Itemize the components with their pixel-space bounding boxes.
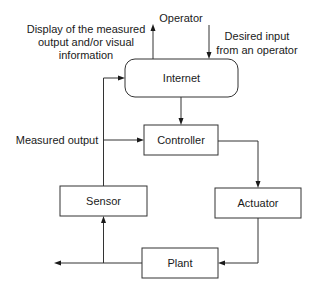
controller-label: Controller — [157, 134, 205, 146]
edge-operator-to-internet — [207, 25, 212, 59]
arrow-up-icon — [101, 216, 106, 223]
edge-controller-to-actuator — [218, 141, 261, 188]
arrow-left-icon — [218, 261, 225, 266]
node-actuator: Actuator — [215, 188, 301, 218]
measured-output-label: Measured output — [16, 134, 99, 146]
edge-internet-to-display — [151, 24, 156, 59]
node-controller: Controller — [144, 125, 218, 155]
node-plant: Plant — [142, 248, 218, 278]
arrow-left-icon — [54, 261, 61, 266]
desired-input-annotation: Desired input from an operator — [216, 30, 298, 56]
node-sensor: Sensor — [60, 186, 147, 216]
edge-internet-to-controller — [179, 97, 184, 125]
actuator-label: Actuator — [238, 197, 279, 209]
node-internet: Internet — [125, 59, 238, 97]
arrow-up-icon — [151, 24, 156, 31]
operator-label: Operator — [159, 12, 203, 24]
internet-label: Internet — [163, 72, 200, 84]
display-label-line2: output and/or visual — [38, 36, 134, 48]
arrow-down-icon — [179, 118, 184, 125]
desired-label-line1: Desired input — [225, 30, 290, 42]
display-label-line3: information — [59, 49, 113, 61]
arrow-down-icon — [207, 52, 212, 59]
plant-label: Plant — [167, 257, 192, 269]
edge-plant-to-sensor — [101, 216, 106, 263]
desired-label-line2: from an operator — [216, 44, 298, 56]
display-annotation: Display of the measured output and/or vi… — [27, 23, 146, 61]
arrow-right-icon — [137, 138, 144, 143]
arrow-right-icon — [118, 76, 125, 81]
edge-plant-to-output — [54, 261, 142, 266]
display-label-line1: Display of the measured — [27, 23, 146, 35]
edge-actuator-to-plant — [218, 218, 258, 266]
arrow-down-icon — [256, 181, 261, 188]
control-block-diagram: Internet Controller Sensor Actuator Plan… — [0, 0, 314, 295]
sensor-label: Sensor — [86, 195, 121, 207]
